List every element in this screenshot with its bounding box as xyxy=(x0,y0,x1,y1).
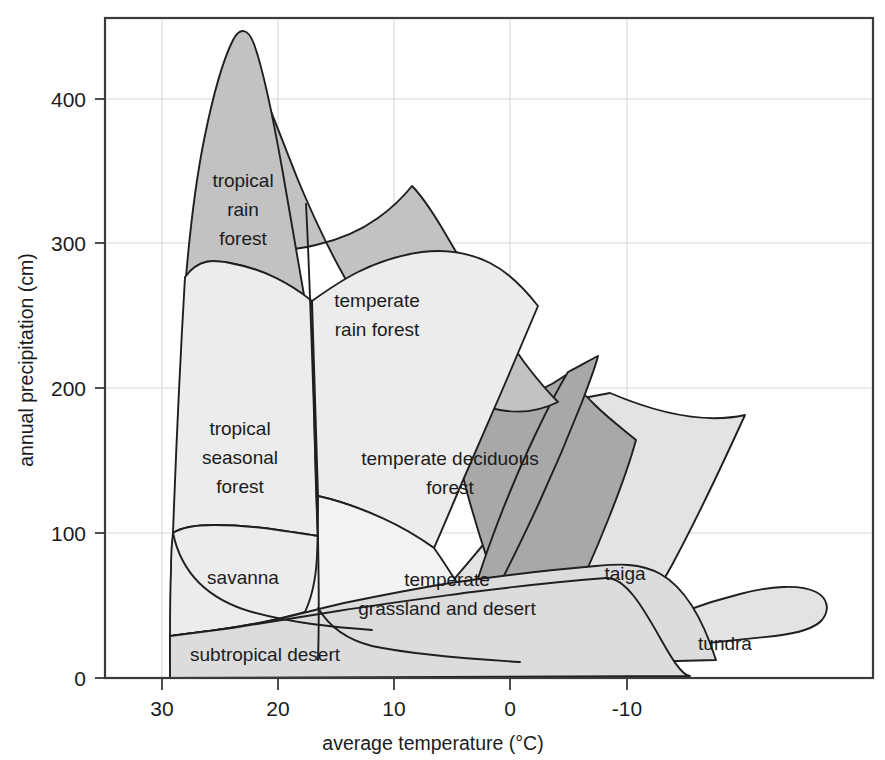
x-tick-label-20: 20 xyxy=(266,697,289,720)
label-temperate-rain-forest-line-1: temperate xyxy=(334,290,420,311)
y-tick-label-300: 300 xyxy=(51,232,86,255)
label-tropical-seasonal-forest-line-2: seasonal xyxy=(202,447,278,468)
label-temperate-rain-forest-line-2: rain forest xyxy=(335,319,420,340)
label-taiga: taiga xyxy=(604,563,646,584)
biome-climate-chart: 0 100 200 300 400 30 20 10 0 -10 average… xyxy=(0,0,885,760)
y-tick-label-100: 100 xyxy=(51,522,86,545)
label-tropical-rain-forest-line-1: tropical xyxy=(212,170,273,191)
label-tropical-rain-forest-line-2: rain xyxy=(227,199,259,220)
x-tick-labels: 30 20 10 0 -10 xyxy=(150,697,642,720)
x-tick-label-m10: -10 xyxy=(612,697,642,720)
label-savanna: savanna xyxy=(207,567,279,588)
y-axis-title: annual precipitation (cm) xyxy=(15,253,37,467)
label-temperate-grassland-and-desert-line-1: temperate xyxy=(404,569,490,590)
x-tick-label-0: 0 xyxy=(504,697,516,720)
y-tick-label-0: 0 xyxy=(74,667,86,690)
label-tundra: tundra xyxy=(698,633,752,654)
label-tropical-seasonal-forest-line-3: forest xyxy=(216,476,264,497)
label-subtropical-desert: subtropical desert xyxy=(190,644,341,665)
label-temperate-grassland-and-desert-line-2: grassland and desert xyxy=(358,598,536,619)
label-temperate-deciduous-forest-line-2: forest xyxy=(426,477,474,498)
label-temperate-deciduous-forest-line-1: temperate deciduous xyxy=(361,448,538,469)
x-tick-label-10: 10 xyxy=(382,697,405,720)
y-tick-labels: 0 100 200 300 400 xyxy=(51,88,86,690)
x-tick-label-30: 30 xyxy=(150,697,173,720)
label-tropical-rain-forest-line-3: forest xyxy=(219,228,267,249)
whittaker-biome-figure: 0 100 200 300 400 30 20 10 0 -10 average… xyxy=(0,0,885,760)
y-tick-label-400: 400 xyxy=(51,88,86,111)
x-axis-title: average temperature (°C) xyxy=(322,732,543,754)
label-tropical-seasonal-forest-line-1: tropical xyxy=(209,418,270,439)
y-tick-label-200: 200 xyxy=(51,377,86,400)
